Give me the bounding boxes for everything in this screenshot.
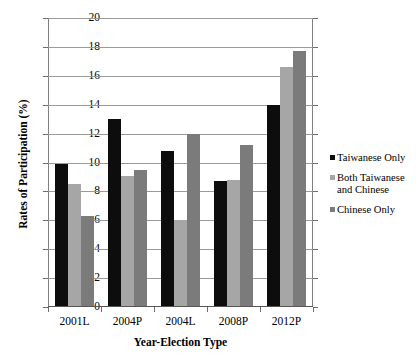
bar [134,170,147,307]
x-tick-label: 2012P [252,315,322,327]
legend-label: Both Taiwanese and Chinese [337,172,405,197]
bar [174,220,187,307]
y-axis-title: Rates of Participation (%) [17,59,29,269]
legend-swatch-icon [330,155,335,160]
x-tick-mark [207,307,208,312]
bar [214,181,227,307]
y-tick-mark-right [313,163,318,164]
bar [121,176,134,307]
bar [68,184,81,307]
bar [81,216,94,307]
y-tick-mark-right [313,105,318,106]
x-tick-mark [260,307,261,312]
bar [187,134,200,307]
bar [227,180,240,307]
legend-item: Chinese Only [330,204,419,217]
chart-legend: Taiwanese OnlyBoth Taiwanese and Chinese… [330,152,419,223]
bar-group [207,18,260,307]
bar [280,67,293,307]
x-axis-line [48,306,313,307]
bar [267,105,280,307]
bar-group [260,18,313,307]
y-tick-mark-right [313,278,318,279]
legend-label: Chinese Only [337,204,395,217]
bar [293,51,306,307]
bar [240,145,253,307]
y-tick-mark-right [313,249,318,250]
legend-swatch-icon [330,207,335,212]
legend-item: Both Taiwanese and Chinese [330,172,419,197]
x-tick-mark [313,307,314,312]
y-tick-mark-right [313,18,318,19]
legend-item: Taiwanese Only [330,152,419,165]
bar-chart: Rates of Participation (%) 0246810121416… [0,0,419,364]
y-tick-mark-right [313,76,318,77]
x-tick-mark [154,307,155,312]
bar-group [154,18,207,307]
y-tick-mark-right [313,134,318,135]
bar [108,119,121,307]
plot-area [48,18,313,307]
bar [161,151,174,307]
legend-swatch-icon [330,175,335,180]
y-tick-mark-right [313,220,318,221]
x-tick-mark [101,307,102,312]
bar-group [48,18,101,307]
x-axis-title: Year-Election Type [48,336,313,348]
x-tick-mark [48,307,49,312]
bar-group [101,18,154,307]
y-tick-mark-right [313,47,318,48]
bar [55,164,68,307]
legend-label: Taiwanese Only [337,152,405,165]
y-tick-mark-right [313,191,318,192]
